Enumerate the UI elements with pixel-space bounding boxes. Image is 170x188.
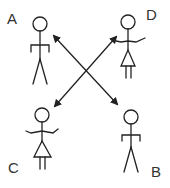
figure-d-head xyxy=(121,15,135,29)
figure-b-head xyxy=(124,110,138,124)
figure-a xyxy=(31,17,49,84)
label-b: B xyxy=(151,164,161,179)
diagram-canvas xyxy=(0,0,170,188)
figure-c xyxy=(26,108,58,169)
label-a: A xyxy=(7,11,17,26)
label-d: D xyxy=(146,7,157,22)
figure-a-head xyxy=(33,17,47,31)
figure-c-head xyxy=(35,108,49,122)
label-c: C xyxy=(8,160,19,175)
figure-d xyxy=(116,15,145,78)
figure-b xyxy=(122,110,140,172)
